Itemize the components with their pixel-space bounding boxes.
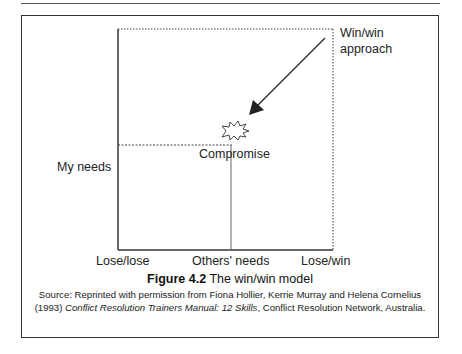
x-label-others-needs: Others' needs (192, 254, 269, 269)
win-win-label-line1: Win/win (340, 26, 384, 41)
compromise-label: Compromise (199, 147, 270, 162)
arrow-head-icon (249, 100, 264, 115)
x-label-lose-win: Lose/win (301, 254, 350, 269)
figure-number: Figure 4.2 (147, 272, 206, 286)
win-win-label-line2: approach (340, 42, 392, 57)
figure-title: The win/win model (209, 272, 313, 286)
x-label-lose-lose: Lose/lose (96, 254, 150, 269)
figure-source: Source: Reprinted with permission from F… (24, 288, 436, 314)
figure-caption: Figure 4.2 The win/win model (21, 272, 439, 287)
starburst-icon (222, 121, 249, 140)
y-axis-label: My needs (57, 160, 111, 175)
arrow-shaft (256, 38, 325, 107)
source-suffix: , Conflict Resolution Network, Australia… (257, 302, 425, 313)
source-book-title: Conflict Resolution Trainers Manual: 12 … (65, 302, 257, 313)
